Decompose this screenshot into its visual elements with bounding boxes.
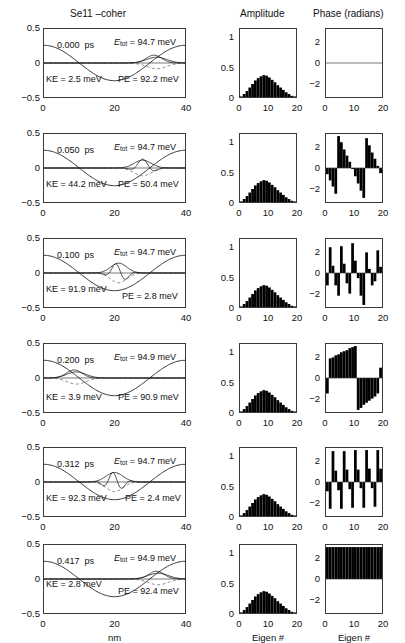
amplitude-x-tick: 20 bbox=[287, 618, 307, 629]
panel-row: 0.50−0.5020400.417 psEtot = 94.9 meVKE =… bbox=[0, 538, 405, 643]
amplitude-x-axis-label: Eigen # bbox=[243, 632, 293, 643]
left-y-tick: 0 bbox=[6, 162, 40, 173]
time-annotation: 0.200 ps bbox=[57, 355, 94, 365]
amplitude-y-tick: 1 bbox=[200, 241, 234, 252]
pe-annotation: PE = 90.9 meV bbox=[118, 392, 179, 402]
phase-y-tick: 2 bbox=[286, 246, 320, 257]
left-y-tick: 0.5 bbox=[6, 538, 40, 549]
phase-plot bbox=[325, 447, 383, 517]
left-x-tick: 40 bbox=[176, 207, 196, 218]
phase-y-tick: 2 bbox=[286, 455, 320, 466]
etot-annotation: Etot = 94.7 meV bbox=[114, 247, 176, 257]
ke-annotation: KE = 2.8 meV bbox=[46, 579, 102, 589]
panel-row: 0.50−0.5020400.312 psEtot = 94.7 meVKE =… bbox=[0, 441, 405, 546]
phase-y-tick: 2 bbox=[286, 351, 320, 362]
phase-x-tick: 0 bbox=[315, 618, 335, 629]
amplitude-column-title: Amplitude bbox=[240, 8, 284, 19]
phase-y-tick: 2 bbox=[286, 36, 320, 47]
phase-x-tick: 20 bbox=[373, 102, 393, 113]
left-column-title: Se11 –coher bbox=[70, 8, 126, 19]
phase-y-tick: −2 bbox=[286, 393, 320, 404]
phase-x-tick: 10 bbox=[344, 417, 364, 428]
time-annotation: 0.000 ps bbox=[57, 40, 94, 50]
left-x-tick: 20 bbox=[105, 618, 125, 629]
amplitude-x-tick: 10 bbox=[258, 207, 278, 218]
panel-row: 0.50−0.5020400.200 psEtot = 94.9 meVKE =… bbox=[0, 337, 405, 442]
amplitude-x-tick: 0 bbox=[229, 312, 249, 323]
phase-y-tick: −2 bbox=[286, 594, 320, 605]
pe-annotation: PE = 92.2 meV bbox=[118, 74, 179, 84]
panel-row: 0.50−0.5020400.100 psEtot = 94.7 meVKE =… bbox=[0, 232, 405, 337]
phase-x-tick: 20 bbox=[373, 521, 393, 532]
phase-x-tick: 10 bbox=[344, 521, 364, 532]
amplitude-y-tick: 1 bbox=[200, 346, 234, 357]
ke-annotation: KE = 92.3 meV bbox=[46, 493, 107, 503]
ke-annotation: KE = 44.2 meV bbox=[46, 179, 107, 189]
amplitude-x-tick: 10 bbox=[258, 312, 278, 323]
pe-annotation: PE = 92.4 meV bbox=[118, 586, 179, 596]
amplitude-x-tick: 20 bbox=[287, 207, 307, 218]
etot-annotation: Etot = 94.9 meV bbox=[114, 352, 176, 362]
left-y-tick: 0 bbox=[6, 372, 40, 383]
time-annotation: 0.100 ps bbox=[57, 250, 94, 260]
etot-annotation: Etot = 94.7 meV bbox=[114, 142, 176, 152]
panel-row: 0.50−0.5020400.000 psEtot = 94.7 meVKE =… bbox=[0, 22, 405, 127]
left-y-tick: 0.5 bbox=[6, 22, 40, 33]
left-x-tick: 0 bbox=[33, 521, 53, 532]
amplitude-y-tick: 0.5 bbox=[200, 377, 234, 388]
phase-x-tick: 0 bbox=[315, 102, 335, 113]
pe-annotation: PE = 2.8 meV bbox=[122, 291, 178, 301]
amplitude-x-tick: 20 bbox=[287, 521, 307, 532]
phase-y-tick: 2 bbox=[286, 141, 320, 152]
pe-annotation: PE = 2.4 meV bbox=[125, 493, 181, 503]
ke-annotation: KE = 3.9 meV bbox=[46, 392, 102, 402]
phase-y-tick: 0 bbox=[286, 476, 320, 487]
amplitude-x-tick: 0 bbox=[229, 102, 249, 113]
phase-x-tick: 20 bbox=[373, 207, 393, 218]
left-x-tick: 0 bbox=[33, 618, 53, 629]
ke-annotation: KE = 2.5 meV bbox=[46, 74, 102, 84]
phase-column-title: Phase (radians) bbox=[313, 8, 384, 19]
ke-annotation: KE = 91.9 meV bbox=[46, 284, 107, 294]
amplitude-x-tick: 20 bbox=[287, 102, 307, 113]
phase-y-tick: −2 bbox=[286, 78, 320, 89]
left-y-tick: 0 bbox=[6, 57, 40, 68]
etot-annotation: Etot = 94.7 meV bbox=[114, 37, 176, 47]
amplitude-y-tick: 0.5 bbox=[200, 272, 234, 283]
etot-annotation: Etot = 94.9 meV bbox=[114, 553, 176, 563]
phase-x-tick: 0 bbox=[315, 417, 335, 428]
phase-y-tick: −2 bbox=[286, 183, 320, 194]
amplitude-x-tick: 20 bbox=[287, 312, 307, 323]
phase-x-tick: 20 bbox=[373, 417, 393, 428]
phase-x-tick: 10 bbox=[344, 102, 364, 113]
amplitude-y-tick: 0.5 bbox=[200, 578, 234, 589]
left-x-tick: 40 bbox=[176, 102, 196, 113]
amplitude-x-tick: 10 bbox=[258, 618, 278, 629]
phase-y-tick: 0 bbox=[286, 162, 320, 173]
left-x-tick: 40 bbox=[176, 312, 196, 323]
time-annotation: 0.417 ps bbox=[57, 556, 94, 566]
left-x-tick: 20 bbox=[105, 102, 125, 113]
phase-x-tick: 10 bbox=[344, 207, 364, 218]
left-x-tick: 0 bbox=[33, 102, 53, 113]
amplitude-x-tick: 0 bbox=[229, 207, 249, 218]
pe-annotation: PE = 50.4 meV bbox=[118, 179, 179, 189]
left-x-axis-label: nm bbox=[95, 632, 135, 643]
time-annotation: 0.312 ps bbox=[57, 459, 94, 469]
phase-plot bbox=[325, 544, 383, 614]
left-y-tick: 0 bbox=[6, 267, 40, 278]
left-y-tick: 0.5 bbox=[6, 337, 40, 348]
figure-root: Se11 –coher Amplitude Phase (radians) 0.… bbox=[0, 0, 405, 643]
left-y-tick: 0.5 bbox=[6, 127, 40, 138]
phase-x-tick: 0 bbox=[315, 521, 335, 532]
time-annotation: 0.050 ps bbox=[57, 145, 94, 155]
left-y-tick: 0.5 bbox=[6, 232, 40, 243]
phase-y-tick: 0 bbox=[286, 57, 320, 68]
left-y-tick: 0.5 bbox=[6, 441, 40, 452]
left-y-tick: 0 bbox=[6, 573, 40, 584]
amplitude-x-tick: 20 bbox=[287, 417, 307, 428]
phase-y-tick: 0 bbox=[286, 267, 320, 278]
left-x-tick: 40 bbox=[176, 618, 196, 629]
amplitude-x-tick: 0 bbox=[229, 521, 249, 532]
amplitude-x-tick: 10 bbox=[258, 521, 278, 532]
